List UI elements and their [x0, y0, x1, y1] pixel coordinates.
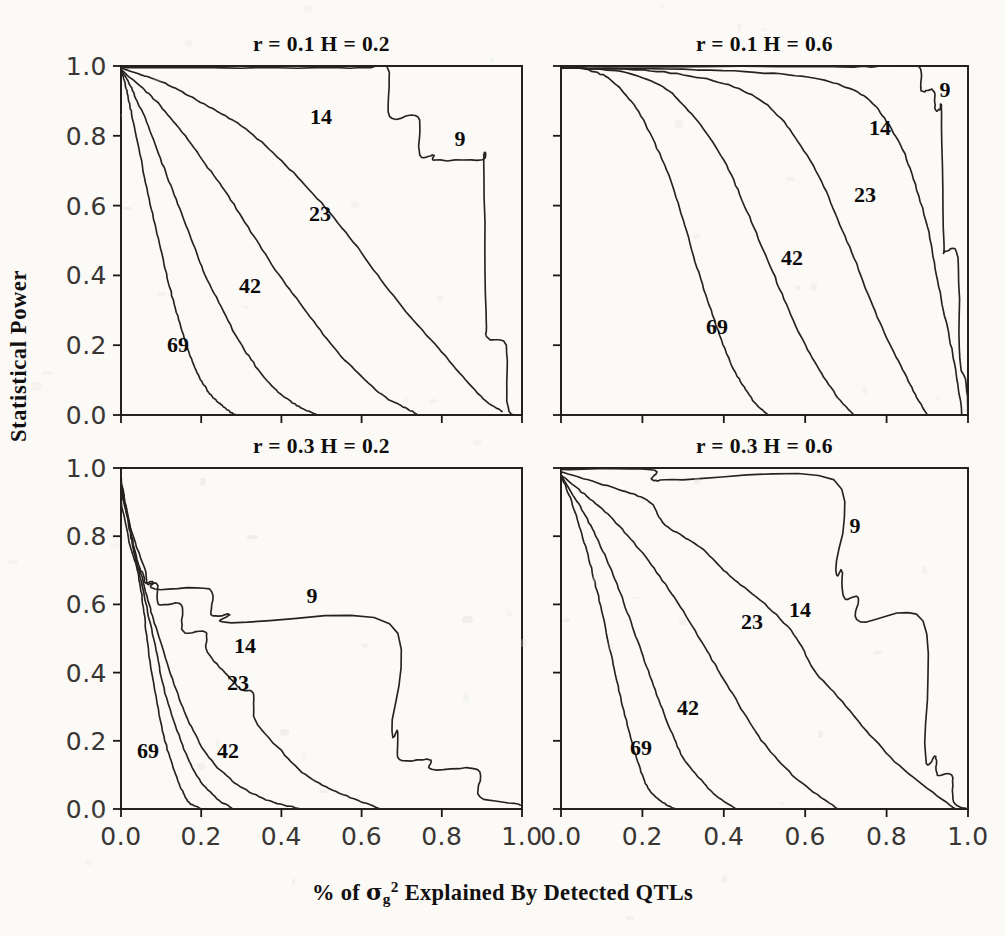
scan-speck	[304, 5, 311, 13]
panel-title-top-left: r = 0.1 H = 0.2	[253, 32, 390, 56]
scan-speck	[157, 292, 166, 295]
x-tick-label: 0.4	[261, 822, 302, 851]
curve-label-bottom-left-n23: 23	[227, 670, 249, 695]
scan-speck	[679, 618, 686, 625]
curve-label-top-left-n23: 23	[309, 201, 331, 226]
scan-speck	[786, 177, 795, 181]
curve-top-left-n69	[121, 69, 237, 415]
curve-top-right-n14	[561, 68, 962, 415]
x-tick-label: 1.0	[501, 822, 542, 851]
scan-speck	[922, 566, 927, 575]
sigma-subscript: g	[383, 890, 391, 907]
scan-speck	[818, 731, 823, 738]
curve-label-bottom-right-n69: 69	[630, 735, 652, 760]
curve-bottom-left-n9	[121, 502, 522, 809]
y-tick-label: 0.6	[66, 192, 107, 221]
curve-label-top-left-n42: 42	[239, 273, 261, 298]
x-tick-label: 0.2	[622, 822, 663, 851]
scan-speck	[200, 478, 206, 487]
scan-speck	[780, 802, 784, 805]
scan-speck	[85, 859, 92, 866]
scan-speck	[247, 535, 258, 539]
plot-canvas: r = 0.1 H = 0.20.00.20.40.60.81.06942231…	[0, 0, 1005, 936]
x-tick-label: 0.8	[866, 822, 907, 851]
scan-speck	[216, 739, 221, 744]
plot-frame-bottom-left	[121, 468, 522, 809]
scan-speck	[94, 815, 104, 819]
x-axis-title-pre: % of	[312, 880, 366, 905]
panel-title-top-right: r = 0.1 H = 0.6	[696, 32, 833, 56]
scan-speck	[506, 611, 513, 616]
scan-speck	[351, 201, 359, 208]
curve-label-top-left-n14: 14	[310, 104, 332, 129]
curve-top-right-n9	[561, 65, 968, 415]
y-tick-label: 0.8	[66, 122, 107, 151]
plot-frame-bottom-right	[561, 468, 968, 809]
scan-speck	[607, 643, 614, 651]
curve-label-bottom-left-n14: 14	[234, 633, 256, 658]
y-tick-label: 0.2	[66, 727, 107, 756]
scan-speck	[362, 643, 368, 648]
y-tick-label: 0.2	[66, 331, 107, 360]
curves-top-right	[561, 65, 968, 415]
curve-bottom-right-n23	[561, 475, 838, 809]
curve-label-bottom-right-n42: 42	[677, 695, 699, 720]
curve-label-top-left-n9: 9	[455, 126, 466, 151]
scan-speck	[122, 207, 132, 210]
curve-label-bottom-right-n9: 9	[850, 513, 861, 538]
scan-speck	[738, 23, 741, 31]
curve-label-bottom-left-n42: 42	[217, 738, 239, 763]
x-tick-label: 0.2	[181, 822, 222, 851]
x-axis-title-post: Explained By Detected QTLs	[399, 880, 693, 905]
x-axis-title: % of σg2 Explained By Detected QTLs	[0, 878, 1005, 908]
scan-speck	[110, 542, 120, 549]
panel-title-bottom-left: r = 0.3 H = 0.2	[253, 434, 390, 458]
scan-speck	[462, 616, 473, 623]
x-tick-label: 0.8	[421, 822, 462, 851]
x-tick-label: 0.0	[100, 822, 141, 851]
curve-label-top-right-n42: 42	[781, 245, 803, 270]
scan-speck	[42, 371, 52, 375]
scan-speck	[153, 78, 162, 82]
scan-speck	[197, 763, 205, 770]
y-tick-label: 0.6	[66, 590, 107, 619]
curve-label-top-left-n69: 69	[167, 332, 189, 357]
curve-label-top-right-n23: 23	[854, 182, 876, 207]
curve-label-bottom-left-n9: 9	[307, 583, 318, 608]
curve-label-bottom-left-n69: 69	[137, 738, 159, 763]
y-tick-label: 1.0	[66, 52, 107, 81]
panel-top-left: r = 0.1 H = 0.20.00.20.40.60.81.06942231…	[66, 32, 522, 430]
scan-speck	[473, 440, 482, 444]
scan-speck	[121, 114, 124, 117]
panel-bottom-left: r = 0.3 H = 0.20.00.20.40.60.81.00.00.20…	[66, 434, 543, 851]
scan-speck	[724, 337, 727, 342]
y-tick-label: 0.8	[66, 522, 107, 551]
x-tick-label: 0.6	[785, 822, 826, 851]
panels-group: r = 0.1 H = 0.20.00.20.40.60.81.06942231…	[66, 32, 989, 851]
curve-bottom-right-n9	[561, 469, 968, 809]
curve-label-top-right-n9: 9	[940, 77, 951, 102]
y-tick-label: 0.4	[66, 261, 107, 290]
curve-top-left-n23	[121, 69, 418, 415]
plot-frame-top-right	[561, 66, 968, 415]
curve-top-right-n42	[561, 67, 854, 415]
x-tick-label: 0.6	[341, 822, 382, 851]
panel-title-bottom-right: r = 0.3 H = 0.6	[696, 434, 833, 458]
y-tick-label: 0.0	[66, 795, 107, 824]
sigma-superscript: 2	[391, 878, 399, 895]
curves-bottom-left	[121, 478, 523, 809]
curves-bottom-right	[561, 469, 968, 809]
x-tick-label: 0.4	[703, 822, 744, 851]
y-tick-label: 0.0	[66, 401, 107, 430]
curve-label-bottom-right-n14: 14	[789, 597, 811, 622]
figure-root: Statistical Power % of σg2 Explained By …	[0, 0, 1005, 936]
scan-speck	[490, 58, 495, 63]
scan-speck	[811, 283, 817, 291]
scan-speck	[762, 28, 766, 31]
scan-speck	[935, 396, 941, 401]
y-tick-label: 0.4	[66, 659, 107, 688]
curve-bottom-right-n14	[561, 472, 956, 809]
curve-label-bottom-right-n23: 23	[741, 609, 763, 634]
y-axis-title: Statistical Power	[6, 270, 36, 442]
scan-speck	[633, 597, 640, 599]
